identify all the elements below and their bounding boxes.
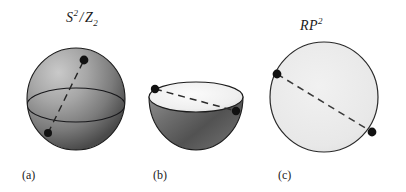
bowl-point-left [151,85,159,93]
label-s2-base: S [66,10,74,25]
panel-b-hemisphere [149,82,243,150]
label-z2-base: Z [85,10,93,25]
panel-a-sphere [27,48,125,150]
panel-c-disk [270,42,378,152]
figure-canvas [0,0,406,192]
label-s2-mod-z2: S2/Z2 [66,10,98,26]
label-z2-subscript: 2 [93,18,98,28]
caption-panel-a: (a) [22,168,35,183]
caption-panel-b: (b) [153,168,167,183]
caption-panel-c: (c) [278,168,291,183]
label-rp2: RP2 [300,18,323,34]
sphere-point-south [44,129,52,137]
label-rp2-base: RP [300,18,318,33]
label-rp2-exponent: 2 [318,16,323,26]
sphere-point-north [80,56,89,65]
sphere-body [27,48,125,150]
label-s2-exponent: 2 [74,8,79,18]
bowl-point-right [232,107,240,115]
disk-point-upper-left [273,70,282,79]
disk-point-lower-right [368,128,377,137]
bowl-rim-interior [149,82,243,112]
figure-container: S2/Z2 RP2 (a) (b) (c) [0,0,406,192]
disk-body [270,42,378,152]
